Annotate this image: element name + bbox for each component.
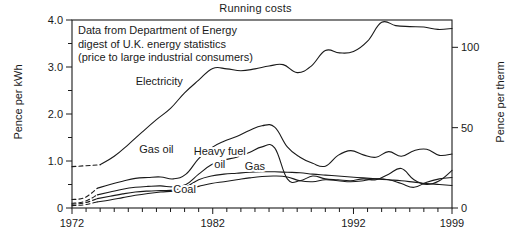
y2-tick-label: 0 [461, 202, 467, 214]
series-line-gas-oil [97, 125, 452, 189]
x-tick-label: 1992 [341, 217, 365, 229]
series-line-dashed-gas-oil [72, 188, 97, 199]
x-tick-label: 1982 [200, 217, 224, 229]
plot-area: 197219821992199901.02.03.04.0050100 Elec… [0, 0, 511, 239]
axis-tick-labels: 197219821992199901.02.03.04.0050100 [48, 14, 480, 229]
series-label-heavy-fuel-oil: Heavy fuel [194, 145, 246, 157]
y-tick-label: 3.0 [48, 61, 63, 73]
y-tick-label: 2.0 [48, 108, 63, 120]
series-label-electricity: Electricity [136, 75, 184, 87]
series-line-dashed-electricity [72, 165, 100, 167]
x-tick-label: 1999 [440, 217, 464, 229]
series-label-coal: Coal [173, 183, 196, 195]
y-tick-label: 0 [57, 202, 63, 214]
series-label-gas-oil: Gas oil [139, 143, 173, 155]
series-line-coal [97, 176, 452, 202]
series-label-gas: Gas [245, 160, 266, 172]
axis-ticks [66, 20, 458, 214]
y2-tick-label: 50 [461, 122, 473, 134]
y2-tick-label: 100 [461, 41, 479, 53]
y-tick-label: 4.0 [48, 14, 63, 26]
y-tick-label: 1.0 [48, 155, 63, 167]
series-label-heavy-fuel-oil: oil [214, 158, 225, 170]
x-tick-label: 1972 [60, 217, 84, 229]
chart-figure: Running costs Pence per kWh Pence per th… [0, 0, 511, 239]
data-series [72, 21, 452, 205]
